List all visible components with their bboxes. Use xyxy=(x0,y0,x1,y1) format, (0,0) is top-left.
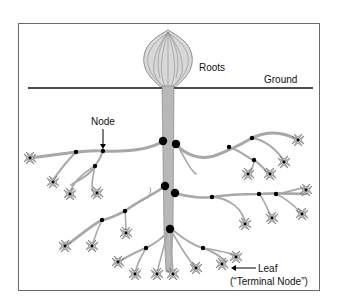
leaf-label: Leaf xyxy=(258,263,277,274)
tree-diagram xyxy=(0,0,337,308)
node-label: Node xyxy=(91,116,115,127)
ground-label: Ground xyxy=(264,74,297,85)
roots-bulb xyxy=(144,30,193,88)
roots-label: Roots xyxy=(199,62,225,73)
terminal-node-label: (“Terminal Node”) xyxy=(230,276,308,287)
